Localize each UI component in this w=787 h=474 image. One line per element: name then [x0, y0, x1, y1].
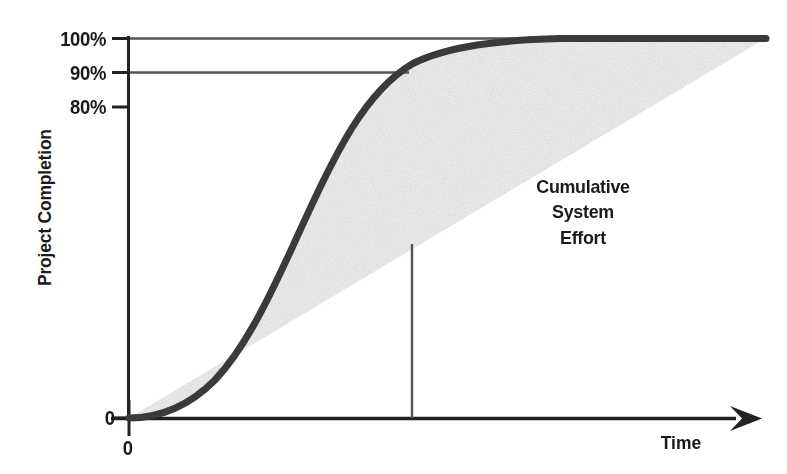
- x-axis-title: Time: [661, 432, 701, 454]
- chart-canvas: [0, 0, 787, 474]
- chart-figure: 100% 90% 80% 0 0 Project Completion Time…: [0, 0, 787, 474]
- y-tick-label-90: 90%: [30, 61, 106, 85]
- annot-line-2: System: [508, 199, 658, 224]
- y-tick-label-100: 100%: [30, 27, 106, 51]
- annot-line-3: Effort: [508, 225, 658, 250]
- y-axis-title: Project Completion: [34, 97, 56, 318]
- cumulative-system-effort-label: Cumulative System Effort: [508, 174, 658, 250]
- cumulative-system-effort-region: [129, 38, 766, 418]
- annot-line-1: Cumulative: [508, 174, 658, 199]
- x-origin-label: 0: [123, 436, 133, 460]
- y-origin-label: 0: [105, 406, 115, 430]
